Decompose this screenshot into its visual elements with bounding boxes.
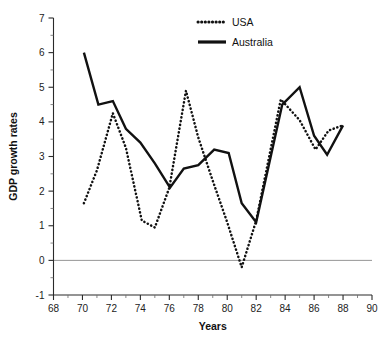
x-tick-label: 78	[193, 303, 205, 314]
x-tick-label: 68	[48, 303, 60, 314]
gdp-growth-line-chart: -101234567687072747678808284868890YearsG…	[0, 0, 383, 337]
y-tick-label: 4	[39, 116, 45, 127]
x-tick-label: 90	[366, 303, 378, 314]
series-line-usa	[84, 91, 343, 268]
x-tick-label: 82	[251, 303, 263, 314]
legend-label-usa: USA	[232, 16, 254, 28]
x-tick-label: 70	[77, 303, 89, 314]
x-tick-label: 76	[164, 303, 176, 314]
x-tick-label: 84	[280, 303, 292, 314]
x-tick-label: 88	[337, 303, 349, 314]
y-axis-title: GDP growth rates	[7, 112, 19, 201]
y-tick-label: 5	[39, 82, 45, 93]
x-tick-label: 74	[135, 303, 147, 314]
y-tick-label: 0	[39, 255, 45, 266]
y-tick-label: 1	[39, 220, 45, 231]
y-tick-label: -1	[36, 290, 45, 301]
legend-label-australia: Australia	[232, 36, 273, 48]
y-tick-label: 6	[39, 47, 45, 58]
chart-canvas: -101234567687072747678808284868890YearsG…	[0, 0, 383, 337]
x-axis-title: Years	[199, 320, 227, 332]
y-tick-label: 3	[39, 151, 45, 162]
y-tick-label: 2	[39, 186, 45, 197]
x-tick-label: 80	[222, 303, 234, 314]
x-tick-label: 72	[106, 303, 118, 314]
y-tick-label: 7	[39, 13, 45, 24]
x-tick-label: 86	[309, 303, 321, 314]
